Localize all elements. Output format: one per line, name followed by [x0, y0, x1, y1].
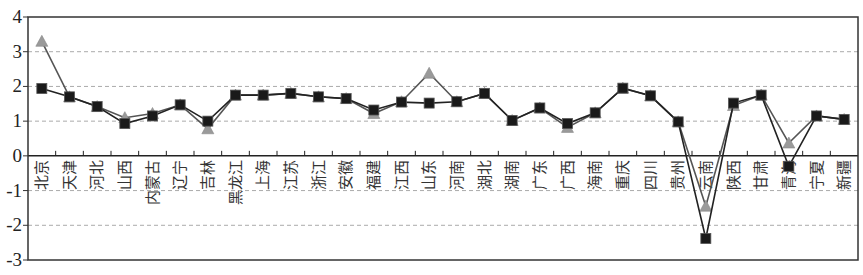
square-marker	[535, 103, 545, 113]
x-category-label: 新疆	[835, 160, 853, 190]
x-category-label: 山西	[116, 160, 134, 190]
x-category-label: 山东	[420, 160, 438, 190]
square-marker	[92, 102, 102, 112]
x-category-label: 江苏	[282, 160, 300, 190]
square-marker	[37, 84, 47, 94]
square-marker	[397, 97, 407, 107]
square-marker	[258, 90, 268, 100]
square-marker	[590, 108, 600, 118]
data-series	[36, 35, 850, 243]
x-category-label: 天津	[61, 160, 79, 190]
square-marker	[231, 90, 241, 100]
y-tick-label: 1	[13, 110, 23, 131]
x-category-label: 辽宁	[171, 160, 189, 190]
x-category-label: 黑龙江	[227, 160, 245, 205]
x-category-label: 重庆	[614, 160, 632, 190]
x-category-label: 湖南	[503, 160, 521, 190]
x-category-label: 贵州	[669, 160, 687, 190]
triangle-marker	[36, 35, 48, 46]
x-category-label: 陕西	[725, 160, 743, 190]
x-category-label: 江西	[393, 160, 411, 190]
square-marker	[148, 111, 158, 121]
square-marker	[424, 98, 434, 108]
x-category-label: 河南	[448, 160, 466, 190]
square-marker	[756, 90, 766, 100]
square-marker	[646, 91, 656, 101]
x-category-label: 广西	[559, 160, 577, 190]
x-category-label: 福建	[365, 160, 383, 190]
square-marker	[812, 111, 822, 121]
square-marker	[563, 119, 573, 129]
y-axis: 43210-1-2-3	[6, 6, 28, 270]
square-marker	[784, 161, 794, 171]
y-tick-label: 4	[13, 6, 23, 27]
y-tick-label: 0	[13, 145, 23, 166]
x-category-label: 浙江	[310, 160, 328, 190]
y-tick-label: -3	[6, 249, 22, 270]
x-category-label: 湖北	[476, 160, 494, 190]
x-category-label: 北京	[33, 160, 51, 190]
triangle-marker	[423, 67, 435, 78]
square-marker	[701, 233, 711, 243]
square-marker	[203, 116, 213, 126]
x-axis: 北京天津河北山西内蒙古辽宁吉林黑龙江上海江苏浙江安徽福建江西山东河南湖北湖南广东…	[28, 151, 858, 205]
square-marker	[314, 92, 324, 102]
square-marker	[369, 105, 379, 115]
x-category-label: 吉林	[199, 160, 217, 190]
square-marker	[452, 97, 462, 107]
y-tick-label: 3	[13, 41, 23, 62]
x-category-label: 甘肃	[752, 160, 770, 190]
y-tick-label: -2	[6, 214, 22, 235]
line-chart: 43210-1-2-3 北京天津河北山西内蒙古辽宁吉林黑龙江上海江苏浙江安徽福建…	[0, 0, 863, 275]
y-tick-label: -1	[6, 180, 22, 201]
plot-frame	[28, 17, 858, 260]
x-category-label: 安徽	[337, 160, 355, 190]
square-marker	[507, 115, 517, 125]
x-category-label: 四川	[642, 160, 660, 190]
x-category-label: 上海	[254, 160, 272, 190]
square-marker	[673, 117, 683, 127]
square-marker	[286, 88, 296, 98]
square-marker	[618, 83, 628, 93]
x-category-label: 海南	[586, 160, 604, 190]
square-marker	[65, 92, 75, 102]
square-marker	[729, 98, 739, 108]
square-marker	[341, 94, 351, 104]
y-tick-label: 2	[13, 75, 23, 96]
square-marker	[120, 119, 130, 129]
square-marker	[839, 114, 849, 124]
triangle-marker	[700, 200, 712, 211]
x-category-label: 广东	[531, 160, 549, 190]
x-category-label: 宁夏	[808, 160, 826, 190]
x-category-label: 河北	[88, 160, 106, 190]
square-marker	[480, 88, 490, 98]
square-marker	[175, 100, 185, 110]
x-category-label: 内蒙古	[144, 160, 162, 205]
